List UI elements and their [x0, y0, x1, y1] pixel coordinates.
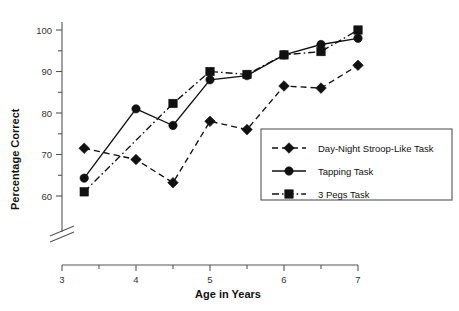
y-axis-ticks [56, 30, 62, 196]
x-axis-tick-labels: 3 4 5 6 7 [59, 274, 360, 285]
data-point-diamond [168, 177, 179, 188]
data-point-square [169, 99, 177, 107]
y-tick-label: 60 [41, 191, 52, 202]
data-point-diamond [279, 81, 290, 92]
data-point-square [280, 51, 288, 59]
chart-container: Percentage Correct Age in Years 100 90 8… [0, 0, 459, 311]
data-point-square [317, 47, 325, 55]
data-point-diamond [316, 83, 327, 94]
y-tick-label: 100 [36, 25, 52, 36]
data-point-diamond [131, 154, 142, 165]
x-axis-title: Age in Years [195, 288, 261, 300]
y-axis: 100 90 80 70 60 [36, 22, 74, 242]
y-axis-title: Percentage Correct [9, 108, 21, 210]
x-tick-label: 3 [59, 274, 64, 285]
data-point-square [206, 67, 214, 75]
data-point-diamond [205, 116, 216, 127]
legend-item-2[interactable]: 3 Pegs Task [272, 189, 370, 200]
data-point-square [354, 26, 362, 34]
data-point-circle [132, 105, 140, 113]
x-tick-label: 6 [281, 274, 286, 285]
y-tick-label: 80 [41, 108, 52, 119]
data-point-circle [206, 76, 214, 84]
data-point-square [285, 190, 293, 198]
data-point-circle [80, 174, 88, 182]
data-point-circle [354, 34, 362, 42]
y-tick-label: 70 [41, 149, 52, 160]
data-point-square [80, 188, 88, 196]
data-point-circle [169, 121, 177, 129]
legend-label: Day-Night Stroop-Like Task [318, 143, 434, 154]
data-point-diamond [79, 143, 90, 154]
x-tick-label: 4 [133, 274, 138, 285]
y-tick-label: 90 [41, 66, 52, 77]
line-chart: Percentage Correct Age in Years 100 90 8… [0, 0, 459, 311]
data-point-diamond [353, 60, 364, 71]
x-axis: 3 4 5 6 7 [59, 265, 360, 285]
data-point-square [243, 70, 251, 78]
x-tick-label: 5 [207, 274, 212, 285]
x-axis-ticks [62, 265, 358, 271]
legend: Day-Night Stroop-Like TaskTapping Task3 … [261, 129, 452, 200]
y-axis-tick-labels: 100 90 80 70 60 [36, 25, 52, 202]
legend-label: Tapping Task [318, 166, 374, 177]
legend-item-1[interactable]: Tapping Task [272, 166, 374, 177]
x-tick-label: 7 [355, 274, 360, 285]
legend-label: 3 Pegs Task [318, 189, 370, 200]
data-point-circle [285, 167, 293, 175]
